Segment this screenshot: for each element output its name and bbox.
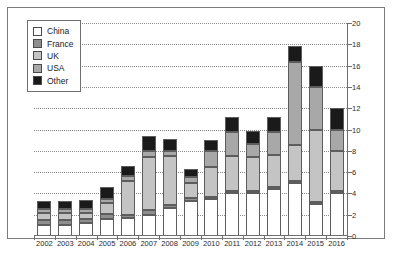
bar-2014[interactable]	[288, 46, 302, 236]
bar-segment-usa-2012[interactable]	[246, 144, 260, 157]
bar-segment-usa-2013[interactable]	[267, 132, 281, 155]
x-tick-2003	[76, 236, 77, 240]
bar-2006[interactable]	[121, 166, 135, 236]
bar-segment-other-2011[interactable]	[225, 117, 239, 132]
bar-segment-uk-2009[interactable]	[184, 183, 198, 198]
bar-2008[interactable]	[163, 139, 177, 236]
bar-segment-uk-2003[interactable]	[58, 213, 72, 220]
legend-item-uk[interactable]: UK	[33, 50, 73, 62]
legend-item-china[interactable]: China	[33, 25, 73, 37]
bar-segment-other-2010[interactable]	[204, 140, 218, 151]
bar-segment-uk-2007[interactable]	[142, 157, 156, 210]
bar-segment-china-2014[interactable]	[288, 183, 302, 236]
bar-segment-usa-2006[interactable]	[121, 176, 135, 180]
bar-segment-uk-2015[interactable]	[309, 130, 323, 202]
bar-segment-uk-2014[interactable]	[288, 145, 302, 180]
bar-segment-france-2013[interactable]	[267, 187, 281, 189]
bar-segment-france-2006[interactable]	[121, 215, 135, 218]
bar-segment-china-2011[interactable]	[225, 193, 239, 236]
bar-segment-usa-2010[interactable]	[204, 151, 218, 167]
y-tick-label-8: 8	[352, 146, 356, 155]
bar-segment-uk-2016[interactable]	[330, 151, 344, 191]
bar-segment-uk-2012[interactable]	[246, 157, 260, 191]
bar-segment-china-2015[interactable]	[309, 204, 323, 236]
bar-segment-other-2006[interactable]	[121, 166, 135, 177]
bar-2009[interactable]	[184, 169, 198, 236]
bar-2011[interactable]	[225, 117, 239, 236]
bar-segment-usa-2005[interactable]	[100, 199, 114, 203]
bar-segment-china-2007[interactable]	[142, 215, 156, 236]
bar-segment-other-2002[interactable]	[37, 201, 51, 210]
bar-segment-china-2008[interactable]	[163, 208, 177, 236]
bar-segment-uk-2005[interactable]	[100, 203, 114, 214]
bar-segment-usa-2009[interactable]	[184, 177, 198, 182]
bar-segment-usa-2014[interactable]	[288, 62, 302, 145]
bar-segment-usa-2015[interactable]	[309, 87, 323, 130]
bar-segment-other-2007[interactable]	[142, 136, 156, 151]
bar-segment-france-2003[interactable]	[58, 220, 72, 225]
bar-segment-china-2016[interactable]	[330, 193, 344, 236]
bar-segment-china-2009[interactable]	[184, 201, 198, 236]
x-tick-label-2003: 2003	[57, 239, 74, 248]
legend-item-france[interactable]: France	[33, 37, 73, 49]
bar-segment-usa-2007[interactable]	[142, 151, 156, 157]
bar-segment-other-2003[interactable]	[58, 201, 72, 210]
bar-2013[interactable]	[267, 117, 281, 236]
legend-item-usa[interactable]: USA	[33, 62, 73, 74]
bar-segment-usa-2011[interactable]	[225, 132, 239, 156]
bar-segment-other-2014[interactable]	[288, 46, 302, 62]
bar-segment-other-2016[interactable]	[330, 108, 344, 129]
bar-segment-usa-2008[interactable]	[163, 151, 177, 156]
bar-segment-other-2008[interactable]	[163, 139, 177, 151]
bar-segment-uk-2011[interactable]	[225, 156, 239, 191]
bar-segment-other-2004[interactable]	[79, 200, 93, 210]
bar-2016[interactable]	[330, 108, 344, 236]
bar-segment-france-2002[interactable]	[37, 220, 51, 225]
bar-segment-china-2012[interactable]	[246, 193, 260, 236]
bar-segment-china-2013[interactable]	[267, 189, 281, 236]
bar-segment-france-2007[interactable]	[142, 210, 156, 214]
bar-segment-other-2012[interactable]	[246, 131, 260, 145]
bar-segment-france-2004[interactable]	[79, 219, 93, 223]
bar-2010[interactable]	[204, 140, 218, 236]
bar-segment-france-2014[interactable]	[288, 181, 302, 183]
bar-segment-france-2011[interactable]	[225, 191, 239, 193]
bar-segment-france-2010[interactable]	[204, 197, 218, 199]
bar-segment-other-2013[interactable]	[267, 117, 281, 132]
bar-segment-other-2005[interactable]	[100, 187, 114, 199]
y-tick-20	[348, 23, 352, 24]
bar-segment-uk-2004[interactable]	[79, 213, 93, 219]
bar-segment-france-2015[interactable]	[309, 202, 323, 204]
bar-segment-usa-2003[interactable]	[58, 209, 72, 212]
bar-segment-uk-2008[interactable]	[163, 156, 177, 205]
bar-2004[interactable]	[79, 200, 93, 236]
bar-segment-france-2009[interactable]	[184, 198, 198, 201]
bar-2005[interactable]	[100, 187, 114, 236]
bar-segment-other-2015[interactable]	[309, 66, 323, 87]
bar-segment-uk-2010[interactable]	[204, 167, 218, 197]
bar-segment-china-2005[interactable]	[100, 219, 114, 236]
bar-segment-uk-2006[interactable]	[121, 181, 135, 215]
bar-segment-china-2010[interactable]	[204, 199, 218, 236]
bar-segment-china-2006[interactable]	[121, 218, 135, 236]
x-tick-origin	[34, 236, 35, 240]
bar-2002[interactable]	[37, 201, 51, 236]
bar-2003[interactable]	[58, 201, 72, 236]
bar-segment-usa-2004[interactable]	[79, 209, 93, 212]
bar-segment-france-2012[interactable]	[246, 191, 260, 193]
bar-segment-usa-2002[interactable]	[37, 209, 51, 212]
legend-label-france: France	[47, 39, 73, 49]
bar-segment-other-2009[interactable]	[184, 169, 198, 178]
bar-2012[interactable]	[246, 131, 260, 236]
bar-segment-france-2016[interactable]	[330, 191, 344, 193]
bar-segment-usa-2016[interactable]	[330, 130, 344, 151]
y-tick-16	[348, 66, 352, 67]
legend-item-other[interactable]: Other	[33, 75, 73, 87]
bar-segment-france-2005[interactable]	[100, 214, 114, 219]
bar-2007[interactable]	[142, 136, 156, 236]
bar-2015[interactable]	[309, 66, 323, 236]
bar-segment-uk-2002[interactable]	[37, 213, 51, 220]
bar-segment-uk-2013[interactable]	[267, 155, 281, 187]
y-tick-label-0: 0	[352, 232, 356, 241]
bar-segment-france-2008[interactable]	[163, 205, 177, 208]
